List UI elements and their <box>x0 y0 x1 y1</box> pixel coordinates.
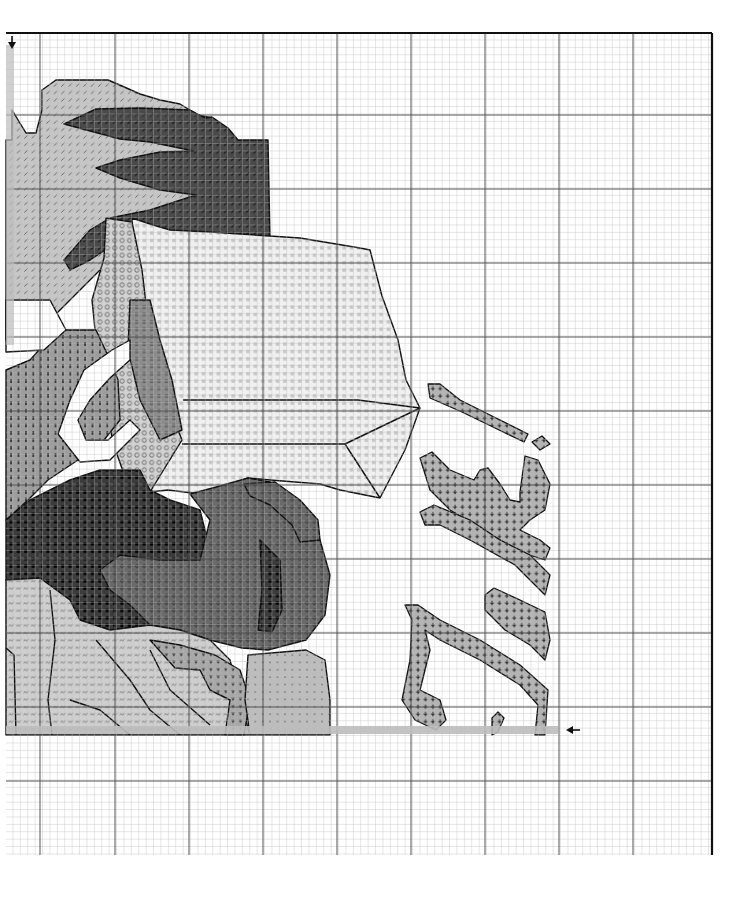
center-col-band <box>6 45 14 345</box>
center-row-band <box>6 726 558 734</box>
cross-stitch-chart <box>0 0 756 903</box>
